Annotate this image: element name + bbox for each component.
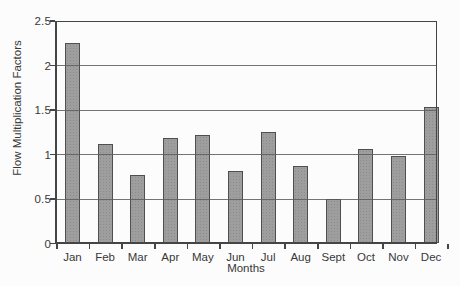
y-tick-label-2: 2 (25, 60, 51, 72)
x-tick-3 (154, 244, 156, 249)
x-tick-6 (252, 244, 254, 249)
x-tick-label-aug: Aug (290, 251, 310, 263)
bar-oct (358, 149, 373, 243)
x-tick-label-may: May (192, 251, 214, 263)
x-tick-8 (317, 244, 319, 249)
x-tick-label-jan: Jan (63, 251, 82, 263)
bar-sept (326, 199, 341, 244)
y-tick-label-0.5: 0.5 (25, 193, 51, 205)
gridline-2 (55, 65, 437, 66)
x-tick-5 (219, 244, 221, 249)
x-tick-label-mar: Mar (128, 251, 148, 263)
x-tick-label-nov: Nov (388, 251, 408, 263)
x-tick-label-jun: Jun (226, 251, 245, 263)
x-tick-label-jul: Jul (261, 251, 276, 263)
gridline-0.5 (55, 199, 437, 200)
bar-feb (98, 144, 113, 244)
x-tick-0 (56, 244, 58, 249)
bar-nov (391, 156, 406, 243)
x-tick-2 (121, 244, 123, 249)
x-tick-7 (284, 244, 286, 249)
x-tick-4 (187, 244, 189, 249)
x-tick-12 (447, 244, 449, 249)
x-tick-9 (350, 244, 352, 249)
y-tick-label-1.5: 1.5 (25, 104, 51, 116)
x-tick-10 (382, 244, 384, 249)
x-tick-label-feb: Feb (95, 251, 115, 263)
x-tick-11 (415, 244, 417, 249)
gridline-1.5 (55, 110, 437, 111)
bar-aug (293, 166, 308, 243)
bar-jan (65, 43, 80, 243)
x-tick-label-sept: Sept (321, 251, 345, 263)
x-tick-label-dec: Dec (421, 251, 441, 263)
bar-dec (424, 107, 439, 243)
gridline-1 (55, 154, 437, 155)
bar-may (195, 135, 210, 244)
y-tick-label-1: 1 (25, 149, 51, 161)
chart-canvas: Flow Multiplication Factors Months 00.51… (0, 0, 460, 286)
bar-jun (228, 171, 243, 244)
y-axis-title: Flow Multiplication Factors (11, 40, 23, 175)
x-tick-1 (89, 244, 91, 249)
y-tick-label-2.5: 2.5 (25, 15, 51, 27)
bar-mar (130, 175, 145, 244)
x-axis-title: Months (227, 262, 265, 274)
x-tick-label-oct: Oct (357, 251, 375, 263)
bar-jul (261, 132, 276, 243)
x-tick-label-apr: Apr (161, 251, 179, 263)
y-tick-label-0: 0 (25, 238, 51, 250)
